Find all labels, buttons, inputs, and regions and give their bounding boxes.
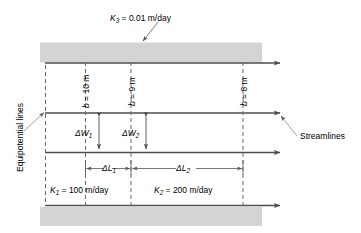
thickness-label-2: b = 9 m [128,77,137,106]
delta-w1-label: ΔW1 [75,129,92,138]
delta-l1-symbol: ΔL [102,163,112,173]
thickness-2-value: = 9 m [127,77,137,99]
equipotential-lines-text: Equipotential lines [15,103,25,172]
equipotential-leader-line [24,113,44,132]
k3-leader-line [143,22,158,41]
k2-symbol: K [154,185,160,195]
thickness-2-symbol: b [127,101,137,106]
k2-label: K2 = 200 m/day [154,186,213,195]
delta-w1-subscript: 1 [89,132,93,139]
thickness-3-value: = 8 m [239,77,249,99]
k1-value: = 100 m/day [62,185,109,195]
delta-l1-label: ΔL1 [102,164,116,173]
diagram-canvas [0,0,361,233]
delta-l2-subscript: 2 [186,167,190,174]
delta-l1-subscript: 1 [112,167,116,174]
upper-confining-layer [40,43,262,63]
k1-symbol: K [50,185,56,195]
delta-l2-label: ΔL2 [176,164,190,173]
thickness-label-1: b = 10 m [82,75,91,108]
streamlines-label: Streamlines [300,132,345,141]
thickness-1-value: = 10 m [81,75,91,101]
k2-subscript: 2 [160,189,164,196]
k3-value: = 0.01 m/day [122,13,171,23]
thickness-label-3: b = 8 m [240,77,249,106]
delta-w2-label: ΔW2 [122,129,139,138]
k1-label: K1 = 100 m/day [50,186,109,195]
delta-l2-symbol: ΔL [176,163,186,173]
delta-w2-subscript: 2 [136,132,140,139]
k1-subscript: 1 [56,189,60,196]
streamlines-leader-line [281,116,297,136]
flow-net-diagram: K3 = 0.01 m/day Equipotential lines Stre… [0,0,361,233]
k2-value: = 200 m/day [166,185,213,195]
delta-w1-symbol: ΔW [75,128,89,138]
streamlines-text: Streamlines [300,131,345,141]
k3-symbol: K [110,13,116,23]
thickness-3-symbol: b [239,101,249,106]
equipotential-lines-label: Equipotential lines [16,103,25,172]
lower-confining-layer [40,207,262,226]
k3-label: K3 = 0.01 m/day [110,14,171,23]
delta-w2-symbol: ΔW [122,128,136,138]
thickness-1-symbol: b [81,103,91,108]
k3-subscript: 3 [116,17,120,24]
